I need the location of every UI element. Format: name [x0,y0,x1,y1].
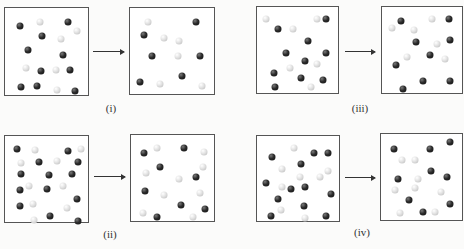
light-sphere-icon [404,54,411,61]
light-sphere-icon [411,27,418,34]
dark-sphere-icon [392,62,399,69]
light-sphere-icon [290,25,297,32]
dark-sphere-icon [301,202,308,209]
light-sphere-icon [263,16,270,23]
light-sphere-icon [324,167,331,174]
light-sphere-icon [63,205,70,212]
dark-sphere-icon [196,53,203,60]
dark-sphere-icon [446,36,453,43]
light-sphere-icon [18,160,25,167]
dark-sphere-icon [267,212,274,219]
light-sphere-icon [196,190,203,197]
light-sphere-icon [26,183,33,190]
dark-sphere-icon [297,75,304,82]
dark-sphere-icon [137,78,144,85]
dark-sphere-icon [34,82,41,89]
light-sphere-icon [153,144,160,151]
dark-sphere-icon [66,66,73,73]
light-sphere-icon [397,210,404,217]
dark-sphere-icon [391,146,398,153]
dark-sphere-icon [319,76,326,83]
arrow-right-icon [94,176,125,177]
panel-ii-before-box [4,135,89,223]
light-sphere-icon [30,217,37,224]
dark-sphere-icon [397,17,404,24]
light-sphere-icon [412,157,419,164]
dark-sphere-icon [16,202,23,209]
light-sphere-icon [442,56,449,63]
dark-sphere-icon [178,202,185,209]
panel-iv-before-box [256,135,340,222]
light-sphere-icon [52,66,59,73]
light-sphere-icon [59,182,66,189]
dark-sphere-icon [13,145,20,152]
dark-sphere-icon [43,185,50,192]
light-sphere-icon [145,18,152,25]
light-sphere-icon [53,157,60,164]
dark-sphere-icon [420,77,427,84]
light-sphere-icon [391,187,398,194]
dark-sphere-icon [74,217,81,224]
light-sphere-icon [156,81,163,88]
dark-sphere-icon [419,209,426,216]
dark-sphere-icon [400,85,407,92]
dark-sphere-icon [72,88,79,95]
dark-sphere-icon [271,84,278,91]
dark-sphere-icon [69,171,76,178]
light-sphere-icon [201,148,208,155]
dark-sphere-icon [427,146,434,153]
dark-sphere-icon [46,172,53,179]
light-sphere-icon [175,176,182,183]
arrow-right-icon [345,51,375,52]
dark-sphere-icon [444,174,451,181]
light-sphere-icon [53,86,60,93]
dark-sphere-icon [446,139,453,146]
dark-sphere-icon [141,32,148,39]
light-sphere-icon [160,34,167,41]
panel-i-before-box [4,7,89,96]
dark-sphere-icon [154,214,161,221]
dark-sphere-icon [148,53,155,60]
dark-sphere-icon [16,187,23,194]
light-sphere-icon [198,83,205,90]
dark-sphere-icon [141,149,148,156]
dark-sphere-icon [74,158,81,165]
light-sphere-icon [142,170,149,177]
light-sphere-icon [438,188,445,195]
dark-sphere-icon [142,188,149,195]
arrow-right-icon [93,51,124,52]
dark-sphere-icon [412,39,419,46]
dark-sphere-icon [64,18,71,25]
dark-sphere-icon [65,148,72,155]
light-sphere-icon [399,157,406,164]
dark-sphere-icon [324,149,331,156]
dark-sphere-icon [301,57,308,64]
panel-label: (ii) [103,228,116,240]
dark-sphere-icon [446,77,453,84]
dark-sphere-icon [270,69,277,76]
light-sphere-icon [302,215,309,222]
dark-sphere-icon [16,22,23,29]
dark-sphere-icon [274,196,281,203]
dark-sphere-icon [193,18,200,25]
panel-ii-after-box [130,134,215,222]
panel-label: (iv) [354,226,370,238]
dark-sphere-icon [202,206,209,213]
panel-i-after-box [129,7,215,95]
dark-sphere-icon [327,190,334,197]
light-sphere-icon [174,53,181,60]
light-sphere-icon [140,209,147,216]
panel-label: (i) [106,102,116,114]
light-sphere-icon [176,37,183,44]
light-sphere-icon [314,16,321,23]
dark-sphere-icon [302,183,309,190]
light-sphere-icon [32,146,39,153]
dark-sphere-icon [73,196,80,203]
light-sphere-icon [77,145,84,152]
light-sphere-icon [29,201,36,208]
light-sphere-icon [189,214,196,221]
dark-sphere-icon [37,68,44,75]
dark-sphere-icon [262,180,269,187]
light-sphere-icon [161,192,168,199]
dark-sphere-icon [178,73,185,80]
